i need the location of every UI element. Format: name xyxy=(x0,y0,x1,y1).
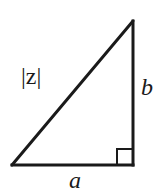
vertical-leg-label: b xyxy=(141,75,153,99)
right-triangle-diagram: |z| b a xyxy=(0,0,165,194)
horizontal-leg-label: a xyxy=(69,168,81,192)
hypotenuse-label: |z| xyxy=(21,64,41,88)
hypotenuse-line xyxy=(12,21,133,165)
right-angle-marker xyxy=(117,149,133,165)
